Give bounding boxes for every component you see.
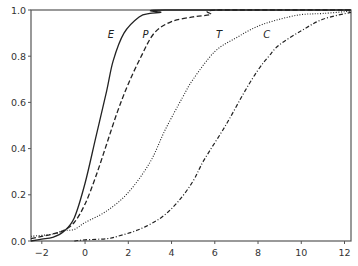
series-labels: EPTC (108, 29, 270, 40)
x-tick-label: 2 (125, 247, 131, 258)
y-tick-label: 0.4 (11, 143, 26, 154)
series-label-p: P (143, 29, 150, 40)
cdf-line-chart: 0.00.20.40.60.81.0 −2024681012 EPTC (0, 0, 358, 266)
x-tick-label: 10 (295, 247, 307, 258)
x-tick-label: 8 (255, 247, 261, 258)
x-tick-label: 12 (338, 247, 350, 258)
y-tick-label: 0.8 (11, 51, 26, 62)
series-line-e (31, 10, 351, 241)
x-tick-label: 6 (212, 247, 218, 258)
series-label-c: C (263, 29, 270, 40)
y-tick-label: 1.0 (11, 5, 26, 16)
series-label-t: T (216, 29, 223, 40)
series-lines (31, 10, 351, 241)
series-line-c (74, 12, 351, 241)
y-tick-label: 0.2 (11, 189, 26, 200)
series-label-e: E (108, 29, 115, 40)
y-tick-label: 0.0 (11, 236, 26, 247)
x-tick-label: 0 (82, 247, 88, 258)
x-tick-label: −2 (35, 247, 49, 258)
x-tick-label: 4 (169, 247, 175, 258)
y-axis: 0.00.20.40.60.81.0 (11, 5, 31, 247)
x-axis: −2024681012 (35, 241, 351, 258)
y-tick-label: 0.6 (11, 97, 26, 108)
